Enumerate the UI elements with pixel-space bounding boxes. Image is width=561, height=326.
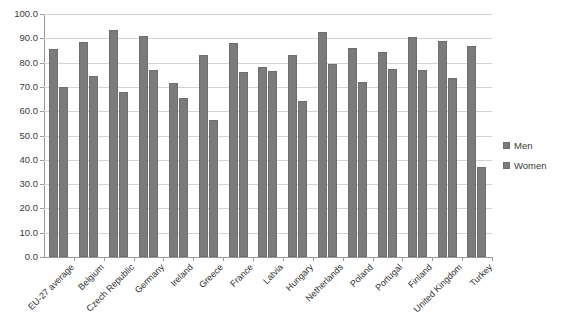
- bar-group: [462, 14, 492, 257]
- bar-men: [49, 49, 58, 257]
- x-axis-category-label: Germany: [132, 262, 166, 296]
- bar-group: [104, 14, 134, 257]
- x-axis-category-label: EU-27 average: [26, 262, 77, 313]
- x-axis-tick-mark: [74, 257, 75, 261]
- bar-women: [418, 70, 427, 257]
- bar-women: [239, 72, 248, 257]
- bar-women: [209, 120, 218, 257]
- bar-men: [169, 83, 178, 257]
- bar-women: [59, 87, 68, 257]
- x-axis-tick-mark: [462, 257, 463, 261]
- x-axis-tick-mark: [313, 257, 314, 261]
- bar-women: [149, 70, 158, 257]
- x-axis-tick-mark: [193, 257, 194, 261]
- bar-women: [358, 82, 367, 257]
- y-axis-tick-label: 90.0: [0, 33, 38, 43]
- bar-women: [179, 98, 188, 257]
- bar-group: [253, 14, 283, 257]
- legend-swatch-icon: [503, 162, 510, 169]
- bar-men: [318, 32, 327, 257]
- x-axis-category-label: Turkey: [468, 262, 495, 289]
- bar-chart: 100.090.080.070.060.050.040.030.020.010.…: [0, 0, 561, 326]
- y-axis-tick-label: 80.0: [0, 58, 38, 68]
- bar-group: [402, 14, 432, 257]
- x-axis-tick-mark: [373, 257, 374, 261]
- bar-women: [388, 69, 397, 257]
- bar-group: [313, 14, 343, 257]
- x-axis-tick-mark: [283, 257, 284, 261]
- x-axis-category-label: Poland: [348, 262, 376, 290]
- bar-women: [89, 76, 98, 257]
- y-axis-tick-label: 40.0: [0, 155, 38, 165]
- bar-women: [298, 101, 307, 257]
- x-axis-category-label: France: [228, 262, 256, 290]
- legend-item: Men: [503, 140, 561, 151]
- bar-group: [44, 14, 74, 257]
- y-axis-tick-label: 10.0: [0, 228, 38, 238]
- bar-men: [139, 36, 148, 257]
- x-axis-tick-mark: [343, 257, 344, 261]
- x-axis-tick-mark: [163, 257, 164, 261]
- bar-men: [288, 55, 297, 257]
- legend-swatch-icon: [503, 142, 510, 149]
- bar-women: [328, 64, 337, 257]
- bar-group: [432, 14, 462, 257]
- x-axis-category-labels: EU-27 averageBelgiumCzech RepublicGerman…: [44, 262, 492, 324]
- y-axis-tick-label: 20.0: [0, 203, 38, 213]
- bar-group: [223, 14, 253, 257]
- chart-legend: MenWomen: [503, 140, 561, 180]
- x-axis-category-label: Latvia: [261, 262, 286, 287]
- bar-men: [199, 55, 208, 257]
- x-axis-tick-mark: [134, 257, 135, 261]
- bar-men: [229, 43, 238, 257]
- legend-label: Men: [514, 140, 532, 151]
- legend-label: Women: [514, 160, 547, 171]
- bar-men: [79, 42, 88, 257]
- y-axis-tick-label: 0.0: [0, 252, 38, 262]
- x-axis-tick-mark: [104, 257, 105, 261]
- y-axis-tick-label: 60.0: [0, 106, 38, 116]
- bar-group: [193, 14, 223, 257]
- bar-group: [283, 14, 313, 257]
- x-axis-category-label: Greece: [197, 262, 226, 291]
- bar-group: [134, 14, 164, 257]
- x-axis-category-label: Ireland: [169, 262, 196, 289]
- bar-group: [372, 14, 402, 257]
- bar-group: [163, 14, 193, 257]
- bar-men: [378, 52, 387, 257]
- gridline: [44, 257, 492, 258]
- x-axis-tick-mark: [223, 257, 224, 261]
- bar-men: [408, 37, 417, 257]
- bar-women: [477, 167, 486, 257]
- x-axis-tick-mark: [253, 257, 254, 261]
- x-axis-category-label: Portugal: [374, 262, 405, 293]
- y-axis-tick-label: 30.0: [0, 179, 38, 189]
- y-axis-tick-label: 70.0: [0, 82, 38, 92]
- bar-women: [119, 92, 128, 257]
- x-axis-tick-mark: [432, 257, 433, 261]
- bar-men: [467, 46, 476, 257]
- y-axis-tick-label: 100.0: [0, 9, 38, 19]
- bar-men: [348, 48, 357, 257]
- y-axis-tick-mark: [40, 257, 44, 258]
- bar-men: [438, 41, 447, 257]
- x-axis-tick-mark: [492, 257, 493, 261]
- bar-men: [258, 67, 267, 257]
- bar-men: [109, 30, 118, 257]
- legend-item: Women: [503, 160, 561, 171]
- y-axis-tick-label: 50.0: [0, 131, 38, 141]
- bar-group: [343, 14, 373, 257]
- bar-women: [448, 78, 457, 257]
- bar-groups: [44, 14, 492, 257]
- bar-women: [268, 71, 277, 257]
- x-axis-tick-mark: [402, 257, 403, 261]
- bar-group: [74, 14, 104, 257]
